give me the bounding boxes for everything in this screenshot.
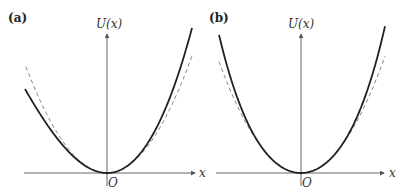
origin-label: O xyxy=(302,176,312,190)
figure: (a) U(x) x O (b) U(x) x O xyxy=(0,0,414,192)
panel-b-label: (b) xyxy=(209,11,229,25)
panel-a-label: (a) xyxy=(8,11,27,25)
panel-b: (b) U(x) x O xyxy=(209,11,396,190)
x-axis-label: x xyxy=(389,166,396,180)
y-axis-label: U(x) xyxy=(96,17,123,31)
harmonic-curve-dashed xyxy=(26,56,192,173)
anharmonic-curve-solid xyxy=(25,28,192,173)
anharmonic-curve-solid xyxy=(219,26,385,173)
y-axis-label: U(x) xyxy=(288,17,315,31)
origin-label: O xyxy=(108,176,118,190)
panel-a: (a) U(x) x O xyxy=(8,11,206,190)
x-axis-label: x xyxy=(199,166,206,180)
